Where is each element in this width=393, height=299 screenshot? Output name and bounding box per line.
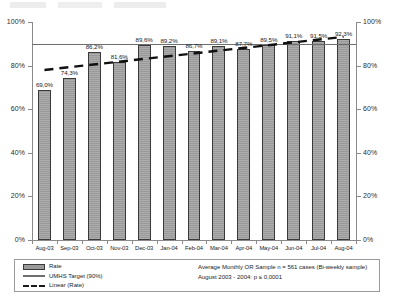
y-axis-right-tick [357, 153, 361, 154]
x-axis-tick [331, 240, 332, 244]
x-axis-label: Aug-03 [30, 245, 58, 251]
bar-value-label: 81,6% [105, 53, 133, 60]
x-axis-label: Jul-04 [305, 245, 333, 251]
y-axis-right-tick [357, 66, 361, 67]
bar-value-label: 87,7% [230, 40, 258, 47]
y-axis-right-tick-label: 60% [363, 105, 377, 112]
y-axis-left-tick-label: 40% [11, 149, 25, 156]
y-axis-right-tick-label: 80% [363, 62, 377, 69]
x-axis-tick [206, 240, 207, 244]
x-axis-label: Jan-04 [155, 245, 183, 251]
bar [138, 45, 151, 240]
y-axis-right-tick [357, 240, 361, 241]
scan-artifact [10, 2, 210, 8]
legend-items: RateUMHS Target (90%)Linear (Rate) [23, 262, 103, 291]
x-axis-label: Sep-03 [55, 245, 83, 251]
bar-value-label: 86,7% [180, 42, 208, 49]
bar [38, 90, 51, 240]
x-axis-tick [57, 240, 58, 244]
x-axis-tick [231, 240, 232, 244]
x-axis-label: Mar-04 [205, 245, 233, 251]
note-line-2: August 2003 - 2004: p ≤ 0,0001 [198, 273, 367, 283]
chart-notes: Average Monthly OR Sample n = 561 cases … [198, 263, 367, 282]
legend-swatch-icon [23, 264, 45, 270]
x-axis-tick [32, 240, 33, 244]
x-axis-tick [306, 240, 307, 244]
legend-label: UMHS Target (90%) [49, 272, 103, 282]
x-axis-tick [82, 240, 83, 244]
y-axis-right [356, 22, 357, 241]
y-axis-right-tick-label: 100% [363, 18, 381, 25]
y-axis-right-tick [357, 109, 361, 110]
y-axis-right-tick-label: 40% [363, 149, 377, 156]
bar [212, 46, 225, 240]
x-axis-label: Dec-03 [130, 245, 158, 251]
x-axis-label: Aug-04 [330, 245, 358, 251]
chart-container: 100%80%60%40%20%0% 100%80%60%40%20%0% 69… [0, 0, 393, 299]
bar [63, 78, 76, 240]
x-axis-label: Oct-03 [80, 245, 108, 251]
x-axis-label: Apr-04 [230, 245, 258, 251]
legend-item: UMHS Target (90%) [23, 272, 103, 282]
y-axis-left-tick-label: 100% [7, 18, 25, 25]
bar [287, 41, 300, 240]
y-axis-left-tick-label: 60% [11, 105, 25, 112]
x-axis [32, 240, 357, 241]
x-axis-tick [132, 240, 133, 244]
y-axis-left-tick-label: 0% [15, 236, 25, 243]
bar [163, 46, 176, 240]
bar [312, 41, 325, 240]
x-axis-tick [281, 240, 282, 244]
bar-value-label: 89,2% [155, 37, 183, 44]
bar-value-label: 89,1% [205, 37, 233, 44]
bar-value-label: 92,3% [330, 30, 358, 37]
legend-swatch-icon [23, 285, 45, 287]
x-axis-tick [356, 240, 357, 244]
y-axis-right-tick-label: 0% [363, 236, 373, 243]
bar [188, 51, 201, 240]
bar-value-label: 91,5% [305, 32, 333, 39]
bar [88, 52, 101, 240]
bar-value-label: 69,0% [30, 81, 58, 88]
note-line-1: Average Monthly OR Sample n = 561 cases … [198, 263, 367, 273]
x-axis-tick [182, 240, 183, 244]
x-axis-tick [256, 240, 257, 244]
bar [237, 49, 250, 240]
x-axis-label: Jun-04 [280, 245, 308, 251]
y-axis-right-tick [357, 196, 361, 197]
x-axis-tick [107, 240, 108, 244]
bar [337, 39, 350, 240]
legend-label: Rate [49, 262, 62, 272]
y-axis-right-tick [357, 22, 361, 23]
x-axis-label: May-04 [255, 245, 283, 251]
legend-item: Linear (Rate) [23, 281, 103, 291]
bar-value-label: 86,2% [80, 43, 108, 50]
x-axis-tick [157, 240, 158, 244]
y-axis-left-tick-label: 20% [11, 192, 25, 199]
x-axis-label: Feb-04 [180, 245, 208, 251]
bar [113, 62, 126, 240]
bar [262, 45, 275, 240]
bar-value-label: 74,3% [55, 69, 83, 76]
y-axis-right-tick-label: 20% [363, 192, 377, 199]
bar-value-label: 91,1% [280, 32, 308, 39]
bar-value-label: 89,5% [255, 36, 283, 43]
x-axis-label: Nov-03 [105, 245, 133, 251]
legend-swatch-icon [23, 275, 45, 277]
y-axis-left-tick-label: 80% [11, 62, 25, 69]
legend-item: Rate [23, 262, 103, 272]
legend-label: Linear (Rate) [49, 281, 84, 291]
bar-value-label: 89,6% [130, 36, 158, 43]
plot-area [32, 22, 356, 240]
legend: RateUMHS Target (90%)Linear (Rate) Avera… [14, 259, 380, 292]
